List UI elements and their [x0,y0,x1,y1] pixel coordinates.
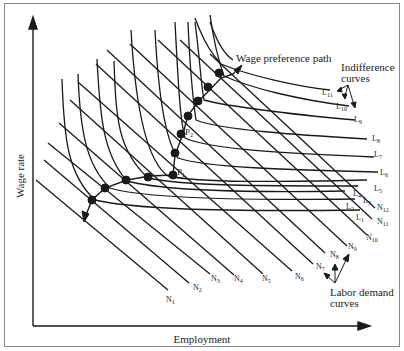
labor-demand-curves [36,40,375,290]
x-axis-label: Employment [174,333,231,345]
svg-text:N2: N2 [193,283,202,293]
equilibrium-dot [101,184,109,192]
y-axis-arrow-icon [29,17,37,29]
path-arrow-down-icon [82,211,89,222]
svg-text:L2: L2 [346,202,354,212]
svg-text:N5: N5 [262,274,271,284]
y-axis-label: Wage rate [14,154,26,198]
svg-text:L4: L4 [353,189,361,199]
demand-title-2: curves [330,297,359,309]
equilibrium-dot-p2 [177,130,185,138]
equilibrium-dot [184,112,192,120]
equilibrium-dot [215,69,223,77]
diagram-frame: Employment Wage rate Wage preference pat… [0,0,404,351]
wage-preference-diagram: Employment Wage rate Wage preference pat… [0,0,404,351]
svg-text:L6: L6 [380,168,388,178]
svg-text:N8: N8 [330,250,339,260]
svg-text:N7: N7 [316,262,325,272]
x-axis-arrow-icon [358,322,370,330]
equilibrium-dot [204,83,212,91]
wage-path-label: Wage preference path [236,52,332,64]
svg-text:N12: N12 [377,203,389,213]
equilibrium-dot [144,173,152,181]
svg-text:N4: N4 [234,274,243,284]
svg-text:L7: L7 [374,150,382,160]
svg-text:L10: L10 [336,102,347,112]
equilibrium-dot [122,176,130,184]
svg-text:L9: L9 [354,115,362,125]
svg-text:N11: N11 [377,217,389,227]
svg-text:N1: N1 [166,295,175,305]
svg-text:L1: L1 [356,213,364,223]
svg-text:N3: N3 [211,274,220,284]
equilibrium-dot [194,97,202,105]
svg-text:L5: L5 [374,184,382,194]
svg-text:L8: L8 [372,134,380,144]
indifference-title-2: curves [341,72,370,84]
equilibrium-dot [171,149,179,157]
svg-text:N6: N6 [295,272,304,282]
equilibrium-dot-p1 [169,171,177,179]
equilibrium-dot [88,196,96,204]
indifference-curves [62,15,378,211]
svg-text:N10: N10 [366,233,378,243]
svg-text:N9: N9 [348,242,357,252]
svg-text:L3: L3 [363,196,371,206]
p1-label: P1 [177,167,185,178]
